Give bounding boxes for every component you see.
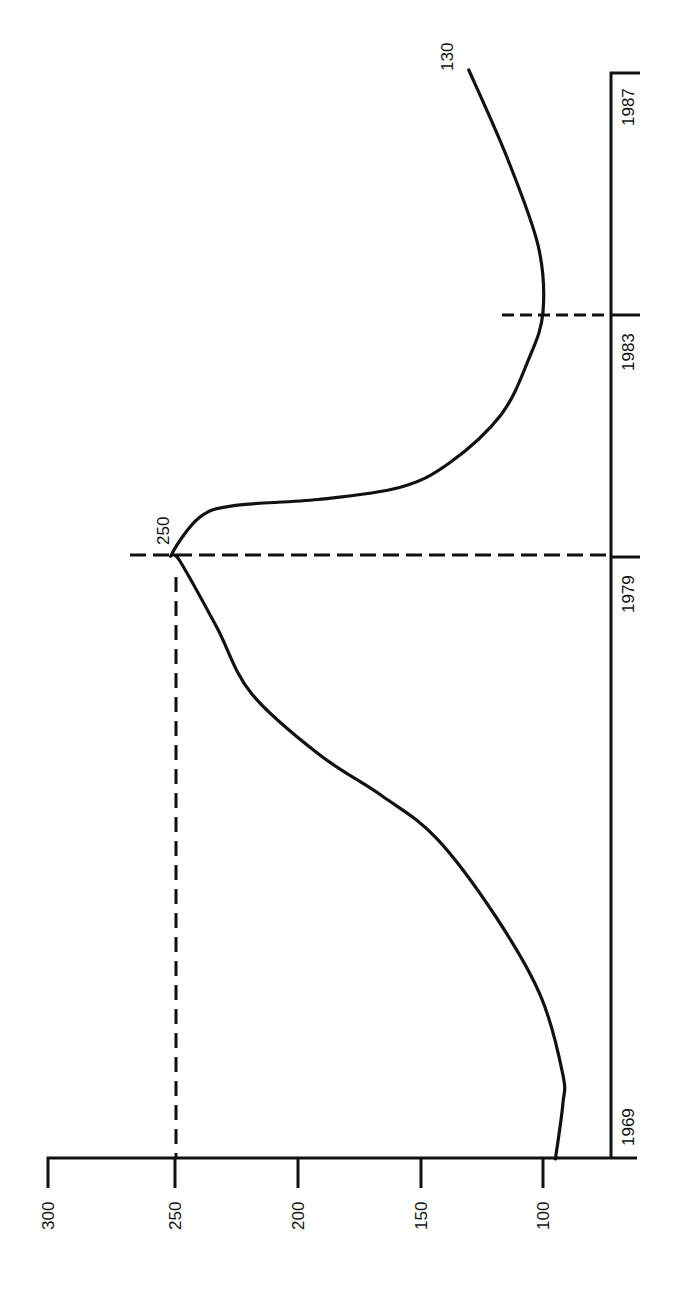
tick-label-250: 250	[166, 1202, 185, 1230]
tick-label-300: 300	[39, 1202, 58, 1230]
tick-label-100: 100	[534, 1202, 553, 1230]
year-axis	[611, 73, 640, 1158]
line-chart: 300 250 200 150 100 1969 1979 1983 1987 …	[0, 0, 676, 1300]
tick-label-1979: 1979	[619, 575, 638, 613]
tick-label-1969: 1969	[619, 1108, 638, 1146]
tick-label-1987: 1987	[619, 88, 638, 126]
year-tick-labels: 1969 1979 1983 1987	[619, 88, 638, 1146]
value-axis	[48, 1158, 637, 1188]
tick-label-200: 200	[289, 1202, 308, 1230]
end-label: 130	[438, 43, 457, 71]
tick-label-150: 150	[412, 1202, 431, 1230]
value-tick-labels: 300 250 200 150 100	[39, 1202, 553, 1230]
data-curve	[171, 70, 565, 1159]
tick-label-1983: 1983	[619, 333, 638, 371]
peak-label: 250	[154, 517, 173, 545]
